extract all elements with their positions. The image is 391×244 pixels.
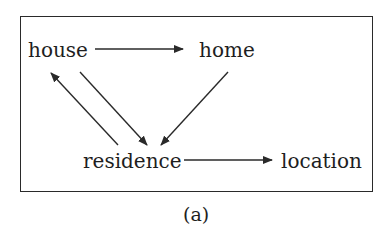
node-home: home [199, 40, 255, 60]
edge-house-to-residence [80, 72, 147, 145]
node-house: house [28, 40, 88, 60]
node-location: location [281, 151, 362, 171]
node-residence: residence [83, 151, 182, 171]
edge-home-to-residence [161, 72, 228, 145]
figure-caption: (a) [183, 205, 209, 224]
edge-residence-to-house [51, 73, 118, 145]
